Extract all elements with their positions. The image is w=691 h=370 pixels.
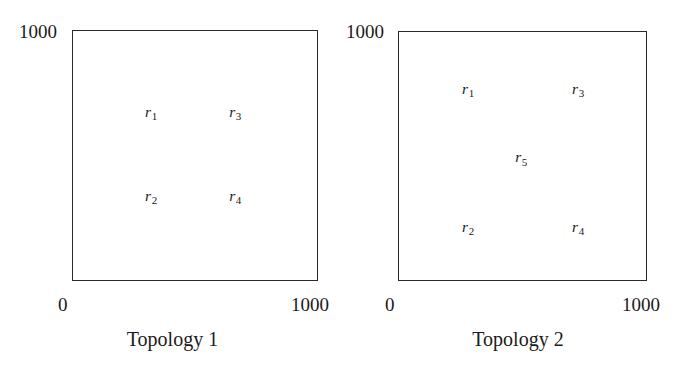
panel-2-node-r2: r2 xyxy=(462,219,474,237)
panel-2-node-r3: r3 xyxy=(572,81,584,99)
panel-1-x-min-label: 0 xyxy=(58,295,68,314)
panel-1-node-r4: r4 xyxy=(229,188,241,206)
panel-1-x-max-label: 1000 xyxy=(291,295,329,314)
panel-1-node-r3: r3 xyxy=(229,104,241,122)
topology-figure: 1000 r1 r3 r2 r4 0 1000 Topology 1 1000 … xyxy=(0,0,691,370)
panel-2-node-r5: r5 xyxy=(515,149,527,167)
panel-1-caption: Topology 1 xyxy=(0,328,403,350)
panel-2-x-min-label: 0 xyxy=(385,295,395,314)
topology-panel-2: 1000 r1 r3 r5 r2 r4 0 1000 Topology 2 xyxy=(345,0,691,370)
panel-1-plot-area: r1 r3 r2 r4 xyxy=(72,30,318,281)
topology-panel-1: 1000 r1 r3 r2 r4 0 1000 Topology 1 xyxy=(0,0,345,370)
panel-2-node-r1: r1 xyxy=(462,81,474,99)
panel-2-y-max-label: 1000 xyxy=(346,22,384,41)
panel-2-node-r4: r4 xyxy=(572,219,584,237)
panel-1-node-r2: r2 xyxy=(145,188,157,206)
panel-2-caption: Topology 2 xyxy=(345,328,691,350)
panel-1-node-r1: r1 xyxy=(145,104,157,122)
panel-1-y-max-label: 1000 xyxy=(19,22,57,41)
panel-2-x-max-label: 1000 xyxy=(622,295,660,314)
panel-2-plot-area: r1 r3 r5 r2 r4 xyxy=(398,31,647,281)
